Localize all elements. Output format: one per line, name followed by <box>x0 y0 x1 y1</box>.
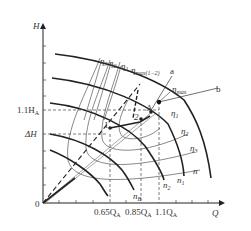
label-eta1-top: η1 <box>121 61 128 72</box>
label-point-1: 1 <box>104 120 109 130</box>
axes <box>43 26 222 203</box>
label-line-b: b <box>216 84 221 94</box>
label-point-A: A <box>146 103 153 113</box>
point-2 <box>139 117 143 121</box>
x-axis-label: Q <box>212 208 219 218</box>
label-eta2-right: η2 <box>181 126 188 137</box>
label-eta-max12: ηmax(1−2) <box>131 65 160 77</box>
label-eta-max: ηmax <box>172 84 187 95</box>
system-curve-dashed <box>43 84 140 203</box>
point-1 <box>108 126 112 130</box>
x-tick-0.85qa: 0.85QA <box>125 207 152 218</box>
origin-thick-segment <box>43 178 75 203</box>
label-point-2: 2 <box>134 112 139 122</box>
x-tick-0.65qa: 0.65QA <box>94 207 121 218</box>
label-n1: n1 <box>177 175 185 186</box>
line-b <box>159 88 218 102</box>
origin-label: 0 <box>35 199 40 209</box>
label-eta3-top: η3 <box>100 56 107 67</box>
speed-curves <box>50 54 211 196</box>
point-max <box>157 100 161 104</box>
y-tick-deltah: ΔH <box>24 129 37 139</box>
label-eta2-top: η2 <box>109 58 116 69</box>
label-line-a: a <box>170 66 174 76</box>
curve-n2 <box>50 103 164 180</box>
pump-characteristic-diagram: H Q 0 1.1HA ΔH 0.65QA 0.85QA 1.1QA <box>0 0 251 231</box>
operating-path-1-2 <box>110 116 150 128</box>
y-tick-1.1ha: 1.1HA <box>17 105 40 116</box>
y-axis-label: H <box>32 21 40 31</box>
label-eta1-right: η1 <box>171 108 178 119</box>
label-n: n <box>193 166 198 176</box>
label-eta3-right: η3 <box>190 143 197 154</box>
label-nB: nB <box>133 191 142 202</box>
x-tick-1.1qa: 1.1QA <box>155 207 178 218</box>
label-n2: n2 <box>163 180 171 191</box>
